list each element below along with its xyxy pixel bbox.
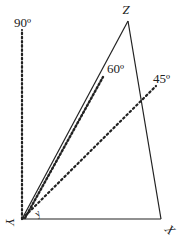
side-yz xyxy=(22,21,128,219)
45-degree-dotted-line xyxy=(22,86,156,219)
label-60: 60º xyxy=(107,61,124,76)
label-90: 90º xyxy=(14,15,31,30)
vertex-y-label: Y xyxy=(3,218,18,227)
triangle-diagram: y 90º 60º 45º Z Y X xyxy=(0,0,185,237)
vertex-z-label: Z xyxy=(122,3,130,18)
vertex-x-label: X xyxy=(162,221,180,237)
60-degree-dotted-line xyxy=(25,77,103,218)
side-zx xyxy=(128,21,161,219)
angle-y-label: y xyxy=(31,207,43,219)
label-45: 45º xyxy=(153,71,170,86)
